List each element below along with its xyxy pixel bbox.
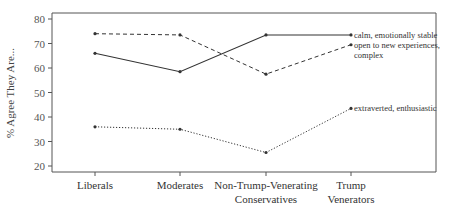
y-axis-label: % Agree They Are... [4, 48, 16, 138]
y-tick-label: 50 [34, 87, 46, 99]
data-point [264, 33, 267, 36]
data-point [349, 43, 352, 46]
series-line [95, 35, 351, 72]
data-point [93, 125, 96, 128]
x-category-label: Non-Trump-Venerating [214, 179, 318, 191]
line-chart: 20304050607080 LiberalsModeratesNon-Trum… [0, 0, 449, 216]
data-point [264, 73, 267, 76]
series-dotted: extraverted, enthusiastic [93, 103, 436, 154]
data-point [178, 70, 181, 73]
data-point [93, 32, 96, 35]
x-category-label: Moderates [157, 179, 203, 191]
data-point [93, 52, 96, 55]
data-point [349, 107, 352, 110]
series-label: extraverted, enthusiastic [354, 103, 437, 113]
x-category-label: Trump [336, 179, 366, 191]
x-category-label: Conservatives [235, 193, 297, 205]
data-point [178, 33, 181, 36]
y-tick-label: 60 [34, 62, 46, 74]
y-tick-label: 30 [34, 136, 46, 148]
series-label: complex [354, 50, 384, 60]
y-tick-label: 40 [34, 111, 46, 123]
series-line [95, 108, 351, 152]
data-point [264, 151, 267, 154]
data-point [178, 128, 181, 131]
x-ticks: LiberalsModeratesNon-Trump-VeneratingCon… [77, 172, 375, 205]
y-tick-label: 70 [34, 38, 46, 50]
y-tick-label: 80 [34, 13, 46, 25]
x-category-label: Liberals [77, 179, 113, 191]
y-ticks: 20304050607080 [34, 13, 52, 172]
series-group: calm, emotionally stableopen to new expe… [93, 30, 440, 154]
data-point [349, 33, 352, 36]
series-solid: calm, emotionally stable [93, 30, 437, 73]
series-label: open to new experiences, [354, 40, 440, 50]
series-line [95, 34, 351, 74]
series-label: calm, emotionally stable [354, 30, 438, 40]
y-tick-label: 20 [34, 160, 46, 172]
x-category-label: Venerators [327, 193, 374, 205]
